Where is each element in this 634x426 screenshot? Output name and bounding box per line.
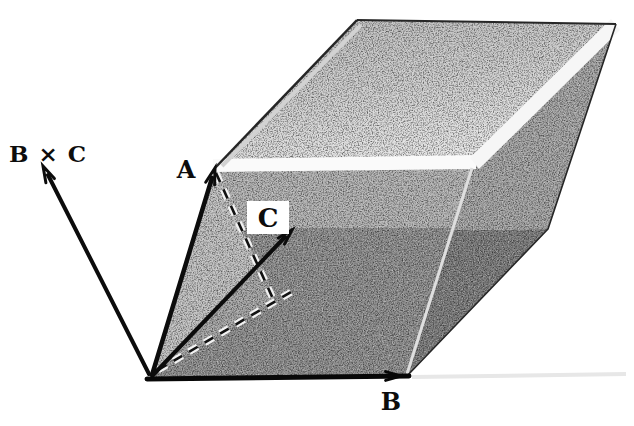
scan-smudge [412, 374, 626, 377]
cross-product-arrow [43, 166, 149, 374]
cross-product-label: B × C [9, 142, 87, 165]
diagram-canvas [0, 0, 634, 426]
vector-b-label: B [381, 390, 401, 414]
parallelepiped [0, 0, 634, 426]
vector-a-label: A [177, 158, 196, 182]
vector-c-label: C [258, 205, 279, 231]
vector-c-label-box: C [247, 201, 289, 234]
stipple-texture [0, 0, 634, 426]
parallelepiped-triple-product-figure: B × C A C B [0, 0, 634, 426]
